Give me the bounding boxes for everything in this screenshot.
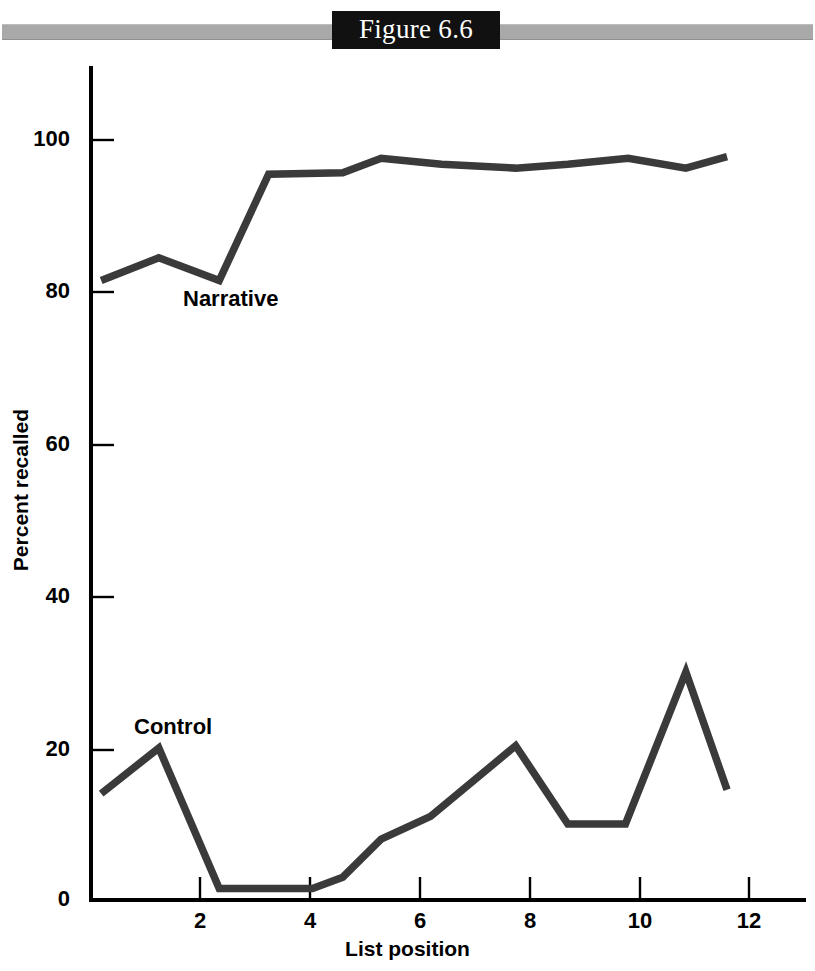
y-axis-label: Percent recalled <box>10 290 31 690</box>
y-tick-label-0: 0 <box>0 888 70 910</box>
series-label-narrative: Narrative <box>183 288 278 310</box>
x-axis-label: List position <box>0 938 815 959</box>
x-tick-label-2: 2 <box>170 910 230 932</box>
y-axis-ticks <box>93 140 114 750</box>
x-tick-label-4: 4 <box>280 910 340 932</box>
series-line-narrative <box>101 157 727 281</box>
x-tick-label-10: 10 <box>610 910 670 932</box>
series-label-control: Control <box>134 716 212 738</box>
y-tick-label-100: 100 <box>0 128 70 150</box>
x-tick-label-6: 6 <box>390 910 450 932</box>
x-tick-label-8: 8 <box>500 910 560 932</box>
x-tick-label-12: 12 <box>719 910 779 932</box>
chart-canvas <box>0 0 815 971</box>
y-tick-label-20: 20 <box>0 738 70 760</box>
line-chart: 100 80 60 40 20 0 2 4 6 8 10 12 Percent … <box>0 0 815 971</box>
series-line-control <box>101 672 727 889</box>
